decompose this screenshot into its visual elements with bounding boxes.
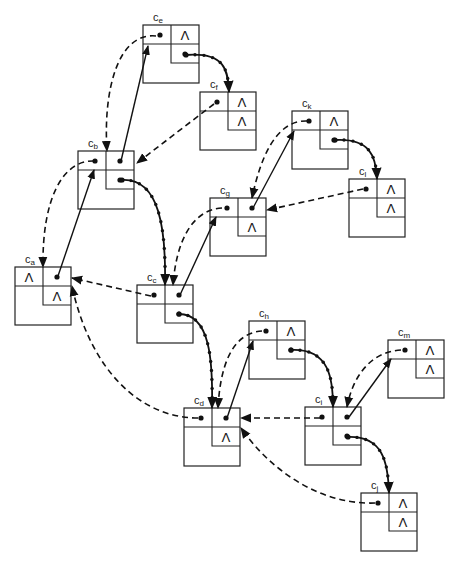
thread-bead [157, 211, 160, 214]
edge-d-left-to-a [72, 286, 198, 418]
thread-bead [183, 52, 188, 57]
thread-bead [218, 61, 221, 64]
lambda-symbol: Λ [399, 515, 408, 530]
node-cb: cb [78, 137, 134, 209]
thread-bead [176, 311, 181, 316]
thread-b-to-c [122, 180, 165, 285]
thread-bead [288, 347, 293, 352]
thread-bead [162, 238, 165, 241]
thread-bead [386, 474, 389, 477]
lambda-symbol: Λ [330, 114, 339, 129]
node-label: ch [259, 307, 269, 321]
thread-bead [360, 142, 363, 145]
thread-bead [307, 350, 310, 353]
lambda-symbol: Λ [426, 362, 435, 377]
edge-f-left-to-b [137, 104, 214, 163]
thread-bead [322, 361, 325, 364]
thread-bead [367, 148, 370, 151]
thread-bead [210, 369, 213, 372]
nodes-layer: caΛΛcbcccdΛceΛcfΛΛcgΛchΛcicjΛΛckΛclΛΛcmΛ… [15, 11, 444, 551]
thread-bead [351, 139, 354, 142]
thread-bead [355, 436, 358, 439]
node-ch: chΛ [249, 307, 305, 379]
lambda-symbol: Λ [399, 496, 408, 511]
thread-bead [298, 348, 301, 351]
thread-bead [345, 434, 350, 439]
thread-bead [210, 396, 213, 399]
pointer-dot [263, 328, 268, 333]
threaded-tree-diagram: caΛΛcbcccdΛceΛcfΛΛcgΛchΛcicjΛΛckΛclΛΛcmΛ… [0, 0, 459, 563]
node-ce: ceΛ [143, 11, 199, 83]
thread-bead [332, 137, 337, 142]
thread-bead [129, 179, 132, 182]
thread-bead [159, 220, 162, 223]
node-label: cc [147, 271, 157, 285]
thread-bead [163, 265, 166, 268]
lambda-symbol: Λ [238, 95, 247, 110]
thread-bead [374, 164, 377, 167]
thread-bead [194, 318, 197, 321]
node-label: cb [88, 137, 99, 151]
thread-bead [186, 314, 189, 317]
lambda-symbol: Λ [25, 270, 34, 285]
lambda-symbol: Λ [387, 201, 396, 216]
thread-bead [163, 247, 166, 250]
thread-bead [145, 188, 148, 191]
edge-e-left-to-b [106, 36, 156, 151]
lambda-symbol: Λ [426, 343, 435, 358]
lambda-symbol: Λ [238, 114, 247, 129]
thread-bead [202, 54, 205, 57]
thread-bead [385, 465, 388, 468]
thread-k-to-l [335, 140, 377, 179]
node-label: ci [315, 393, 323, 407]
lambda-symbol: Λ [181, 28, 190, 43]
thread-bead [210, 378, 213, 381]
lambda-symbol: Λ [387, 182, 396, 197]
pointer-dot [306, 118, 311, 123]
thread-bead [163, 256, 166, 259]
thread-bead [193, 53, 196, 56]
pointer-dot [198, 415, 203, 420]
thread-bead [331, 395, 334, 398]
thread-bead [226, 77, 229, 80]
node-label: ck [302, 97, 313, 111]
pointer-dot [151, 292, 156, 297]
node-label: cf [210, 78, 219, 92]
lambda-symbol: Λ [287, 324, 296, 339]
thread-bead [342, 138, 345, 141]
thread-bead [224, 68, 227, 71]
thread-bead [329, 377, 332, 380]
thread-bead [372, 442, 375, 445]
thread-bead [163, 274, 166, 277]
node-ck: ckΛ [292, 97, 348, 169]
edge-c-left-to-a [72, 278, 151, 296]
node-label: cm [398, 326, 411, 340]
thread-bead [150, 195, 153, 198]
thread-bead [211, 56, 214, 59]
node-label: cl [359, 165, 367, 179]
edge-h-left-to-d [218, 331, 262, 408]
pointer-dot [344, 414, 349, 419]
pointer-dot [375, 500, 380, 505]
node-cg: cgΛ [210, 184, 266, 256]
edge-i-to-m [349, 359, 391, 417]
node-label: cg [220, 184, 230, 198]
pointer-dot [214, 99, 219, 104]
thread-bead [199, 325, 202, 328]
thread-bead [378, 449, 381, 452]
node-label: cd [194, 394, 204, 408]
pointer-dot [319, 414, 324, 419]
thread-bead [138, 182, 141, 185]
thread-e-to-f [186, 55, 229, 92]
thread-bead [161, 229, 164, 232]
lambda-symbol: Λ [53, 289, 62, 304]
thread-bead [326, 368, 329, 371]
thread-bead [154, 203, 157, 206]
edge-b-to-e [121, 46, 148, 161]
pointer-dot [157, 32, 162, 37]
node-label: ca [25, 253, 36, 267]
thread-bead [209, 360, 212, 363]
thread-bead [208, 351, 211, 354]
node-label: ce [153, 11, 164, 25]
pointer-dot [224, 205, 229, 210]
